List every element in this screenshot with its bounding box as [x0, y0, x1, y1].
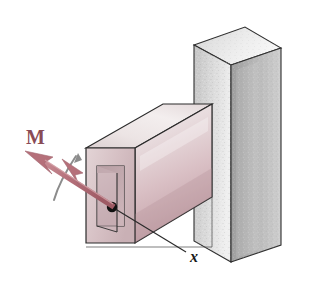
- axis-label: x: [190, 248, 198, 266]
- wall-highlight: [236, 62, 258, 258]
- figure-canvas: M x: [0, 0, 311, 306]
- moment-label: M: [26, 126, 45, 149]
- mechanics-figure: [0, 0, 311, 306]
- tube: [86, 104, 212, 247]
